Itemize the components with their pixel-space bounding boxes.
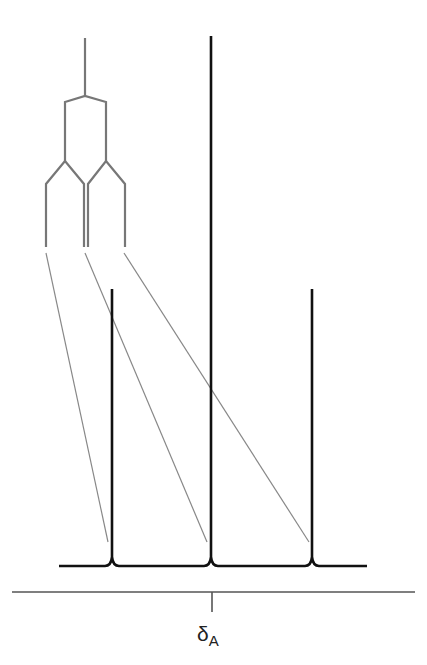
delta-a-label: δA [197, 622, 219, 649]
chemical-shift-axis [12, 592, 415, 612]
connector-line [124, 253, 309, 542]
tree-level2-left-branch [46, 161, 84, 247]
tree-level2-right-branch [88, 161, 125, 247]
connector-lines [46, 253, 309, 542]
connector-line [85, 253, 207, 542]
tree-level1-branch [65, 96, 106, 161]
connector-line [46, 253, 108, 542]
splitting-tree [46, 38, 125, 247]
splitting-diagram [0, 0, 427, 665]
